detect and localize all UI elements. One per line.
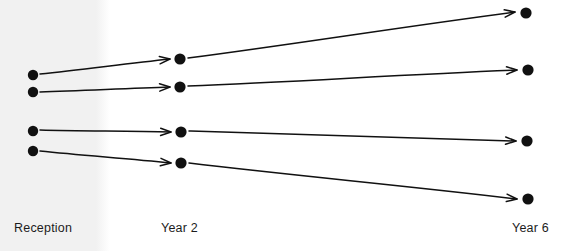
node-dot-y2d: [175, 157, 186, 168]
left-shaded-band: [0, 0, 106, 251]
progression-diagram: [0, 0, 573, 251]
node-dot-y2c: [175, 126, 186, 137]
left-shaded-band-fade: [96, 0, 110, 251]
column-label-year6: Year 6: [512, 222, 549, 235]
node-dot-r4: [28, 146, 38, 156]
node-dot-r1: [28, 70, 38, 80]
node-dot-y6a: [520, 7, 531, 18]
node-dot-y6b: [522, 64, 533, 75]
node-dot-r2: [28, 87, 38, 97]
node-dot-y6c: [521, 135, 532, 146]
node-dot-y2b: [174, 81, 185, 92]
node-dot-y6d: [522, 193, 533, 204]
diagram-canvas: Reception Year 2 Year 6: [0, 0, 573, 251]
node-dot-r3: [28, 126, 38, 136]
column-label-reception: Reception: [14, 222, 72, 235]
node-dot-y2a: [174, 53, 185, 64]
column-label-year2: Year 2: [161, 222, 198, 235]
